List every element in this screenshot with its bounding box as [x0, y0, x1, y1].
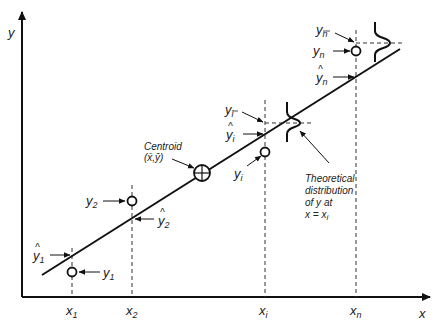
point-y1 — [68, 268, 77, 277]
point-y2 — [128, 197, 137, 206]
x-tick-x2: x2 — [125, 303, 138, 320]
centroid-label: Centroid — [144, 141, 182, 152]
label-y1: y1 — [102, 265, 115, 282]
x-tick-x1: x1 — [65, 303, 78, 320]
distribution-curve-i — [287, 102, 300, 142]
centroid-coords: (x̄,ȳ) — [144, 152, 163, 163]
pointer-arrows — [50, 33, 354, 272]
centroid-marker — [194, 165, 210, 181]
label-y1hat: ^ y1 — [32, 242, 45, 265]
svg-text:of y at: of y at — [305, 197, 333, 208]
label-yibar: yi — [224, 102, 238, 119]
label-y2: y2 — [85, 193, 98, 210]
svg-text:yn: yn — [315, 22, 328, 39]
x-axis-label: x — [418, 306, 426, 321]
point-yn — [352, 47, 361, 56]
label-yihat: ^ yi — [225, 121, 236, 144]
label-yi: yi — [233, 166, 244, 183]
label-y2hat: ^ y2 — [157, 207, 170, 230]
regression-diagram: y x x1 x2 xi — [0, 0, 441, 326]
svg-text:Theoretical: Theoretical — [305, 173, 355, 184]
svg-text:y1: y1 — [32, 248, 45, 265]
label-yn: yn — [312, 43, 325, 60]
x-tick-xn: xn — [349, 303, 362, 320]
label-ynbar: yn — [315, 22, 330, 39]
y-axis-label: y — [7, 25, 16, 40]
svg-text:yi: yi — [224, 102, 235, 119]
svg-text:y2: y2 — [157, 213, 170, 230]
svg-text:distribution: distribution — [305, 185, 354, 196]
svg-text:x = xi: x = xi — [304, 209, 328, 222]
point-yi — [261, 148, 270, 157]
guide-lines — [72, 30, 405, 297]
regression-line — [42, 49, 400, 275]
svg-text:yn: yn — [315, 70, 328, 87]
label-ynhat: ^ yn — [315, 64, 328, 87]
x-tick-xi: xi — [258, 303, 269, 320]
svg-text:yi: yi — [225, 127, 236, 144]
distribution-annotation: Theoretical distribution of y at x = xi — [304, 173, 355, 222]
